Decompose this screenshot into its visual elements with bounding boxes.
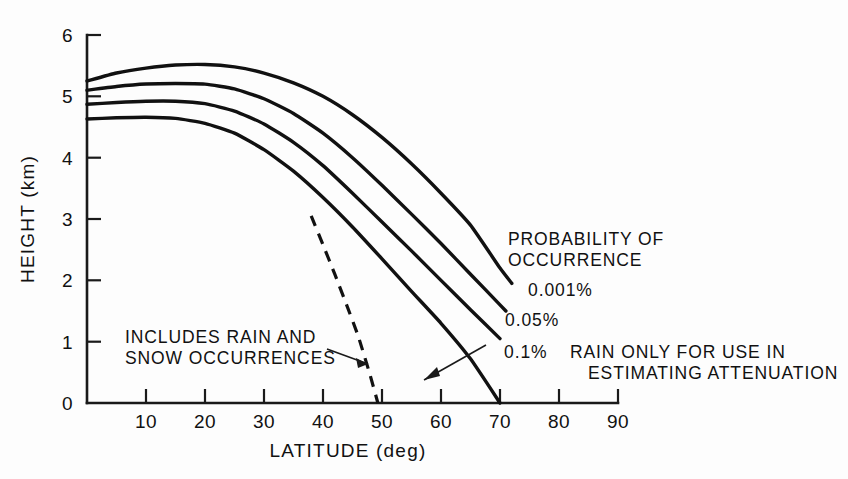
leader-rain-only-arrowhead [424, 367, 440, 380]
x-tick-label-20: 20 [194, 411, 216, 432]
x-tick-label-70: 70 [489, 411, 511, 432]
x-tick-label-50: 50 [371, 411, 393, 432]
x-tick-labels: 10 20 30 40 50 60 70 80 90 [135, 411, 629, 432]
annotation-rain-only-line2: ESTIMATING ATTENUATION [588, 363, 838, 383]
x-tick-label-40: 40 [312, 411, 334, 432]
annotation-probability-line2: OCCURRENCE [508, 250, 642, 270]
annotation-rain-snow: INCLUDES RAIN AND SNOW OCCURRENCES [125, 327, 336, 368]
y-tick-label-2: 2 [62, 270, 73, 291]
chart-figure: 6 5 4 3 2 1 0 10 20 30 40 50 60 70 80 90… [0, 0, 848, 479]
y-tick-label-5: 5 [62, 86, 73, 107]
annotation-rain-only-line1: RAIN ONLY FOR USE IN [570, 342, 786, 362]
x-tick-label-90: 90 [607, 411, 629, 432]
x-tick-label-30: 30 [253, 411, 275, 432]
annotation-rain-snow-line2: SNOW OCCURRENCES [125, 348, 336, 368]
annotation-probability: PROBABILITY OF OCCURRENCE [508, 229, 664, 270]
curve-0.1% [87, 101, 500, 338]
x-axis-ticks [146, 389, 618, 403]
y-tick-label-3: 3 [62, 209, 73, 230]
y-axis-title: HEIGHT (km) [17, 155, 38, 283]
series-label-0001: 0.001% [528, 280, 593, 300]
y-tick-label-6: 6 [62, 25, 73, 46]
x-tick-label-10: 10 [135, 411, 157, 432]
series-label-01: 0.1% [504, 342, 548, 362]
annotation-rain-snow-line1: INCLUDES RAIN AND [125, 327, 316, 347]
y-tick-label-4: 4 [62, 148, 73, 169]
y-tick-labels: 6 5 4 3 2 1 0 [62, 25, 73, 414]
annotation-rain-only: RAIN ONLY FOR USE IN ESTIMATING ATTENUAT… [570, 342, 838, 383]
series-label-005: 0.05% [505, 310, 559, 330]
x-tick-label-80: 80 [548, 411, 570, 432]
chart-plot-area: 6 5 4 3 2 1 0 10 20 30 40 50 60 70 80 90… [0, 0, 848, 479]
x-tick-label-60: 60 [430, 411, 452, 432]
annotation-probability-line1: PROBABILITY OF [508, 229, 664, 249]
y-tick-label-0: 0 [62, 393, 73, 414]
y-tick-label-1: 1 [62, 332, 73, 353]
x-axis-title: LATITUDE (deg) [270, 440, 427, 461]
